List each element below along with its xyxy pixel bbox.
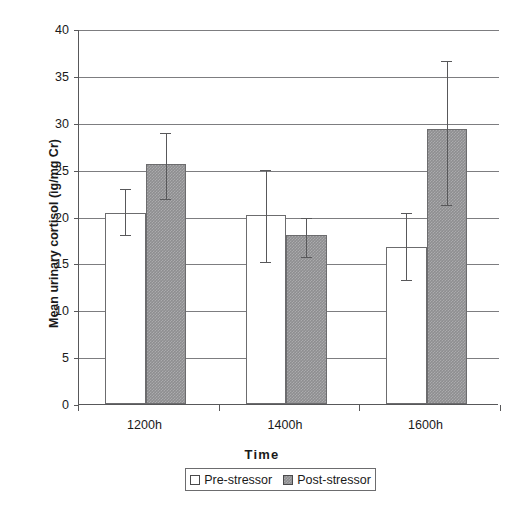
x-axis-tick-label-1600h: 1600h	[386, 418, 466, 432]
y-axis-tick-label: 10	[35, 305, 69, 317]
error-bar-line	[266, 170, 267, 262]
y-axis-tick	[74, 77, 79, 78]
y-axis-tick-label: 35	[35, 71, 69, 83]
y-axis-tick	[74, 264, 79, 265]
legend-label-post-stressor: Post-stressor	[297, 474, 371, 486]
x-axis-title: Time	[0, 447, 524, 462]
x-axis-tick	[219, 405, 220, 411]
error-bar-cap-upper	[441, 61, 452, 62]
y-axis-tick-label: 30	[35, 118, 69, 130]
y-axis-tick	[74, 30, 79, 31]
error-bar-cap-lower	[441, 205, 452, 206]
y-axis-tick	[74, 218, 79, 219]
y-axis-tick-label: 5	[35, 352, 69, 364]
y-axis-tick	[74, 124, 79, 125]
legend-swatch-post-stressor	[283, 475, 293, 485]
y-axis-tick-label: 0	[35, 399, 69, 411]
error-bar-cap-lower	[401, 280, 412, 281]
bar-1200h-pre-stressor	[105, 213, 146, 404]
gridline	[79, 77, 499, 78]
error-bar-cap-upper	[160, 133, 171, 134]
x-axis-tick	[359, 405, 360, 411]
y-axis-tick-label: 25	[35, 165, 69, 177]
x-axis-tick	[500, 405, 501, 411]
error-bar-line	[125, 189, 126, 235]
legend-item-pre-stressor: Pre-stressor	[190, 474, 272, 486]
y-axis-tick-label: 40	[35, 24, 69, 36]
error-bar-cap-upper	[401, 213, 412, 214]
x-axis-tick-label-1200h: 1200h	[105, 418, 185, 432]
bar-1200h-post-stressor	[146, 164, 187, 404]
error-bar-cap-upper	[120, 189, 131, 190]
legend-swatch-pre-stressor	[190, 475, 200, 485]
error-bar-cap-lower	[301, 257, 312, 258]
y-axis-tick-label: 20	[35, 212, 69, 224]
error-bar-line	[406, 213, 407, 281]
legend-label-pre-stressor: Pre-stressor	[204, 474, 272, 486]
legend-item-post-stressor: Post-stressor	[283, 474, 371, 486]
error-bar-line	[447, 61, 448, 205]
y-axis-tick	[74, 358, 79, 359]
error-bar-cap-lower	[120, 235, 131, 236]
error-bar-cap-lower	[160, 199, 171, 200]
y-axis-tick-label: 15	[35, 258, 69, 270]
error-bar-cap-upper	[301, 218, 312, 219]
error-bar-cap-upper	[260, 170, 271, 171]
bar-1400h-post-stressor	[286, 235, 327, 404]
gridline	[79, 124, 499, 125]
error-bar-cap-lower	[260, 262, 271, 263]
x-axis-tick	[78, 405, 79, 411]
legend: Pre-stressor Post-stressor	[185, 468, 376, 491]
gridline	[79, 30, 499, 31]
plot-area	[78, 30, 498, 405]
error-bar-line	[306, 218, 307, 256]
x-axis-tick-label-1400h: 1400h	[245, 418, 325, 432]
y-axis-tick	[74, 171, 79, 172]
y-axis-tick	[74, 311, 79, 312]
error-bar-line	[166, 133, 167, 199]
bar-chart-figure: Mean urinary cortisol (ìg/mg Cr) 0510152…	[0, 0, 524, 513]
